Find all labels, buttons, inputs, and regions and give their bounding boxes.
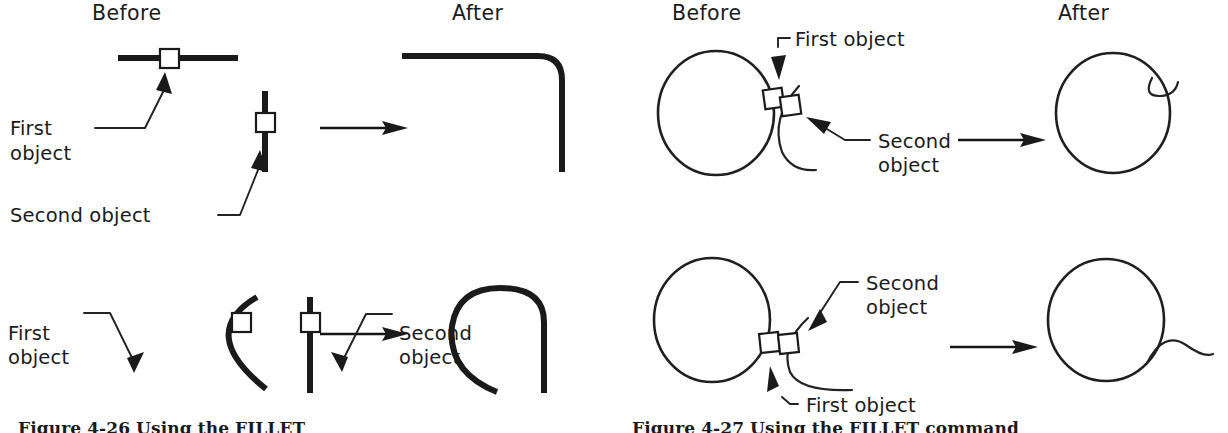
panel-circle-arc-before-top [658, 38, 870, 175]
leader-arrowhead-first-4 [767, 366, 779, 392]
transition-arrow-3 [958, 133, 1046, 147]
caption-figure-4-27: Figure 4-27 Using the FILLET command [632, 418, 1019, 433]
leader-first-object-1 [95, 88, 165, 128]
pickbox-first-object-1[interactable] [160, 49, 179, 68]
label-second-object-3-line2: object [878, 154, 939, 177]
transition-arrow-1 [320, 121, 408, 135]
leader-arrowhead-first-3 [771, 55, 786, 80]
label-second-object-4-line1: Second [866, 272, 939, 295]
pickbox-first-object-2[interactable] [232, 313, 251, 332]
leader-first-object-4 [782, 397, 798, 404]
pickbox-second-object-1[interactable] [256, 113, 275, 132]
header-after-left: After [452, 1, 503, 25]
circle-object-1 [658, 51, 774, 175]
arc-object-3 [787, 318, 852, 390]
label-first-object-1-line2: object [10, 142, 71, 165]
label-second-object-1: Second object [10, 204, 151, 227]
figure-page: Before After First object Second object [0, 0, 1228, 433]
caption-figure-4-26: Figure 4-26 Using the FILLET [18, 418, 305, 433]
leader-first-object-3 [778, 38, 790, 47]
arc-object [229, 297, 266, 389]
circle-object-2 [654, 258, 770, 382]
pickbox-second-object-2[interactable] [301, 313, 320, 332]
leader-second-object-3 [822, 126, 870, 140]
leader-arrowhead-first-1 [156, 72, 172, 94]
after-circle-short-tail [1056, 53, 1178, 173]
transition-arrow-4 [950, 340, 1038, 354]
label-second-object-4-line2: object [866, 296, 927, 319]
leader-arrowhead-second-4 [808, 309, 827, 331]
panel-arc-line-before [84, 297, 392, 393]
pickbox-first-object-4[interactable] [759, 332, 780, 353]
header-before-left: Before [92, 1, 161, 25]
label-first-object-3: First object [795, 28, 905, 51]
panel-line-line-before [95, 49, 275, 215]
transition-arrow-2 [320, 327, 408, 341]
label-first-object-2-line1: First [8, 322, 50, 345]
label-first-object-1-line1: First [10, 117, 52, 140]
after-filleted-corner [402, 56, 562, 172]
after-circle-1 [1056, 53, 1170, 173]
label-second-object-2-line1: Second [399, 322, 472, 345]
pickbox-second-object-4[interactable] [778, 333, 799, 354]
panel-circle-arc-before-bottom [654, 258, 858, 404]
label-first-object-4: First object [806, 394, 916, 417]
leader-arrowhead-second-3 [806, 117, 831, 134]
label-first-object-2-line2: object [8, 346, 69, 369]
header-before-right: Before [672, 1, 741, 25]
label-second-object-3-line1: Second [878, 130, 951, 153]
leader-second-object-4 [818, 282, 858, 316]
header-after-right: After [1058, 1, 1109, 25]
pickbox-second-object-3[interactable] [780, 95, 801, 116]
leader-second-object-1 [218, 165, 260, 215]
leader-arrowhead-first-2 [127, 352, 144, 373]
after-circle-wave-tail [1048, 259, 1213, 381]
diagram-canvas: Before After First object Second object [0, 0, 1228, 433]
